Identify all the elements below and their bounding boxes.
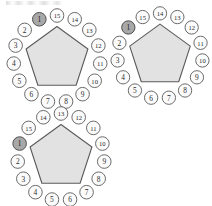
- node-circle: [128, 84, 141, 97]
- node-15: 15: [50, 9, 64, 23]
- node-circle: [116, 71, 129, 84]
- node-circle: [54, 107, 68, 121]
- pentagon-diagram-3: 123456789101112131415: [11, 106, 111, 206]
- node-1: 1: [33, 12, 47, 26]
- node-circle: [76, 87, 90, 101]
- node-circle: [153, 7, 166, 20]
- node-circle: [80, 185, 94, 199]
- node-circle: [63, 193, 77, 206]
- node-circle: [194, 36, 207, 49]
- node-13: 13: [54, 107, 68, 121]
- node-circle: [87, 121, 101, 135]
- node-circle: [9, 39, 23, 53]
- node-7: 7: [80, 185, 94, 199]
- node-9: 9: [190, 71, 203, 84]
- node-5: 5: [45, 193, 59, 206]
- node-circle: [113, 36, 126, 49]
- node-circle: [97, 155, 111, 169]
- node-8: 8: [92, 172, 106, 186]
- node-7: 7: [162, 91, 175, 104]
- node-circle-shaded: [33, 12, 47, 26]
- node-2: 2: [11, 155, 25, 169]
- node-circle: [83, 23, 97, 37]
- node-4: 4: [29, 185, 43, 199]
- node-circle: [25, 87, 39, 101]
- node-12: 12: [185, 21, 198, 34]
- node-10: 10: [88, 74, 102, 88]
- node-circle: [29, 185, 43, 199]
- node-circle-shaded: [13, 137, 27, 151]
- node-11: 11: [194, 36, 207, 49]
- node-4: 4: [116, 71, 129, 84]
- node-11: 11: [87, 121, 101, 135]
- node-circle: [45, 193, 59, 206]
- node-5: 5: [13, 74, 27, 88]
- node-circle: [190, 71, 203, 84]
- node-14: 14: [153, 7, 166, 20]
- node-3: 3: [9, 39, 23, 53]
- node-circle: [96, 137, 110, 151]
- node-11: 11: [93, 57, 107, 71]
- node-15: 15: [136, 10, 149, 23]
- node-circle: [11, 155, 25, 169]
- node-circle: [22, 121, 36, 135]
- node-12: 12: [72, 110, 86, 124]
- node-circle: [18, 23, 32, 37]
- figure-canvas: 123456789101112131415 123456789101112131…: [0, 0, 212, 206]
- pentagon-diagram-1: 123456789101112131415: [7, 8, 107, 108]
- node-9: 9: [97, 155, 111, 169]
- node-2: 2: [18, 23, 32, 37]
- node-circle: [17, 172, 31, 186]
- node-circle: [144, 91, 157, 104]
- node-circle: [13, 74, 27, 88]
- node-14: 14: [37, 110, 51, 124]
- scan-artifact-strip: [6, 1, 62, 5]
- node-4: 4: [7, 57, 21, 71]
- node-6: 6: [63, 193, 77, 206]
- node-circle: [171, 10, 184, 23]
- node-circle: [162, 91, 175, 104]
- node-14: 14: [68, 12, 82, 26]
- node-3: 3: [17, 172, 31, 186]
- node-circle: [136, 10, 149, 23]
- node-circle: [50, 9, 64, 23]
- node-2: 2: [113, 36, 126, 49]
- node-circle: [92, 39, 106, 53]
- node-6: 6: [25, 87, 39, 101]
- node-circle: [93, 57, 107, 71]
- node-13: 13: [171, 10, 184, 23]
- node-9: 9: [76, 87, 90, 101]
- node-circle: [37, 110, 51, 124]
- node-circle: [185, 21, 198, 34]
- node-1: 1: [122, 21, 135, 34]
- node-3: 3: [111, 54, 124, 67]
- node-6: 6: [144, 91, 157, 104]
- node-8: 8: [178, 84, 191, 97]
- node-5: 5: [128, 84, 141, 97]
- pentagon-diagram-2: 123456789101112131415: [111, 6, 209, 104]
- pentagon-shape: [130, 24, 191, 82]
- node-10: 10: [96, 137, 110, 151]
- pentagon-shape: [26, 27, 88, 86]
- node-10: 10: [196, 54, 209, 67]
- pentagon-shape: [30, 125, 92, 184]
- node-1: 1: [13, 137, 27, 151]
- node-circle: [196, 54, 209, 67]
- node-circle: [178, 84, 191, 97]
- node-12: 12: [92, 39, 106, 53]
- node-circle: [92, 172, 106, 186]
- node-circle: [72, 110, 86, 124]
- node-circle: [111, 54, 124, 67]
- node-circle: [88, 74, 102, 88]
- node-circle: [7, 57, 21, 71]
- node-13: 13: [83, 23, 97, 37]
- node-circle-shaded: [122, 21, 135, 34]
- node-15: 15: [22, 121, 36, 135]
- node-circle: [68, 12, 82, 26]
